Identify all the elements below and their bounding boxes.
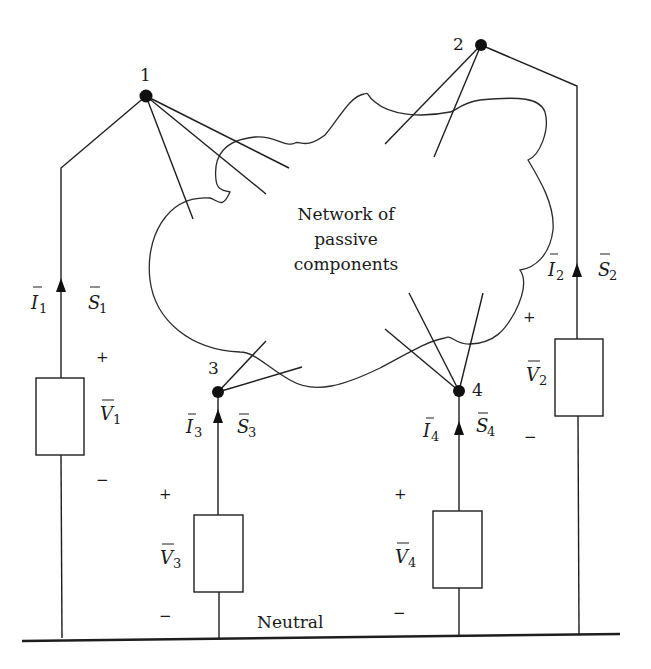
node-3-label: 3	[208, 358, 219, 378]
current-2-symbol: I	[547, 259, 556, 280]
branch-2	[481, 45, 603, 634]
plus-2: +	[523, 308, 536, 326]
cloud-label-line-3: components	[294, 254, 399, 274]
node-3-connections	[218, 341, 302, 392]
node-1-dot	[140, 90, 153, 103]
minus-2: −	[524, 428, 537, 446]
node-3-dot	[212, 386, 224, 398]
current-arrow-3-icon	[213, 409, 223, 423]
minus-1: −	[96, 471, 109, 489]
current-1-subscript: 1	[39, 301, 47, 316]
voltage-4-subscript: 4	[408, 555, 416, 570]
node-2-label: 2	[453, 34, 464, 54]
current-4-symbol: I	[422, 420, 431, 441]
node-4-label: 4	[472, 380, 483, 400]
power-1-subscript: 1	[99, 301, 107, 316]
plus-3: +	[159, 485, 172, 503]
cloud-label-line-2: passive	[314, 229, 378, 249]
diagram-svg: 1 2 3 4 Network of passive components I …	[0, 0, 651, 669]
current-arrow-2-icon	[572, 263, 582, 277]
voltage-2-subscript: 2	[539, 373, 547, 388]
current-arrow-1-icon	[56, 278, 66, 292]
minus-3: −	[159, 607, 172, 625]
current-3-symbol: I	[185, 416, 194, 437]
current-3-subscript: 3	[194, 425, 202, 440]
node-4-connections	[385, 293, 483, 391]
power-3-subscript: 3	[248, 425, 256, 440]
load-box-1	[36, 378, 84, 455]
current-4-subscript: 4	[431, 429, 439, 444]
cloud-label-line-1: Network of	[298, 204, 397, 224]
node-1-label: 1	[140, 65, 151, 85]
power-2-subscript: 2	[609, 268, 617, 283]
node-1-connections	[146, 96, 289, 219]
branch-4	[433, 391, 482, 636]
neutral-bus	[22, 634, 620, 641]
load-box-2	[555, 339, 603, 416]
load-box-3	[194, 515, 243, 592]
power-4-subscript: 4	[487, 424, 495, 439]
neutral-label: Neutral	[257, 612, 323, 632]
voltage-1-subscript: 1	[113, 412, 121, 427]
minus-4: −	[393, 604, 406, 622]
current-arrow-4-icon	[454, 421, 464, 435]
current-2-subscript: 2	[556, 268, 564, 283]
current-1-symbol: I	[30, 292, 39, 313]
plus-1: +	[96, 348, 109, 366]
node-2-connections	[385, 45, 481, 157]
voltage-3-subscript: 3	[173, 556, 181, 571]
circuit-diagram: 1 2 3 4 Network of passive components I …	[0, 0, 651, 669]
node-2-dot	[475, 39, 487, 51]
node-4-dot	[453, 385, 465, 397]
plus-4: +	[394, 485, 407, 503]
load-box-4	[433, 511, 482, 588]
branch-1	[36, 96, 146, 638]
